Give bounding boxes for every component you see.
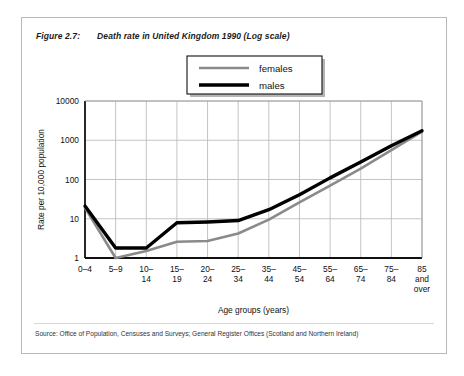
svg-text:100: 100 [65,175,79,185]
x-axis-tick-labels: 0–45–910–1415–1920–2425–3435–4445–5455–6… [78,264,430,294]
figure-panel: Figure 2.7:Death rate in United Kingdom … [21,17,447,354]
svg-text:over: over [414,284,431,294]
svg-text:males: males [259,80,285,91]
svg-text:35–: 35– [262,264,276,274]
svg-text:44: 44 [264,274,274,284]
svg-text:54: 54 [295,274,305,284]
svg-text:1000: 1000 [60,135,79,145]
svg-text:55–: 55– [323,264,337,274]
svg-text:34: 34 [234,274,244,284]
svg-text:10–: 10– [139,264,153,274]
svg-text:females: females [259,63,293,74]
y-axis-tick-labels: 110100100010000 [56,96,80,263]
svg-text:74: 74 [356,274,366,284]
svg-text:Rate per 10,000 population: Rate per 10,000 population [36,129,46,230]
svg-text:19: 19 [172,274,182,284]
svg-text:10: 10 [70,214,80,224]
svg-text:85: 85 [417,264,427,274]
svg-text:65–: 65– [354,264,368,274]
chart-legend: femalesmales [187,56,325,97]
svg-text:84: 84 [387,274,397,284]
x-axis-title: Age groups (years) [218,305,289,315]
svg-text:24: 24 [203,274,213,284]
svg-text:25–: 25– [231,264,245,274]
y-axis-title: Rate per 10,000 population [36,129,46,230]
gridlines [85,101,422,258]
source-divider [34,323,434,324]
data-series-lines [85,131,422,258]
chart-plot-area: 110100100010000 0–45–910–1415–1920–2425–… [22,18,448,318]
svg-text:14: 14 [142,274,152,284]
svg-text:20–: 20– [201,264,215,274]
svg-text:and: and [415,274,429,284]
svg-text:10000: 10000 [56,96,80,106]
death-rate-line-chart: 110100100010000 0–45–910–1415–1920–2425–… [22,18,448,318]
svg-text:5–9: 5–9 [109,264,123,274]
svg-text:45–: 45– [292,264,306,274]
svg-text:Age groups (years): Age groups (years) [218,305,289,315]
svg-text:1: 1 [74,253,79,263]
svg-text:15–: 15– [170,264,184,274]
svg-text:0–4: 0–4 [78,264,92,274]
svg-text:75–: 75– [384,264,398,274]
source-note: Source: Office of Population, Censuses a… [35,330,358,337]
svg-text:64: 64 [325,274,335,284]
